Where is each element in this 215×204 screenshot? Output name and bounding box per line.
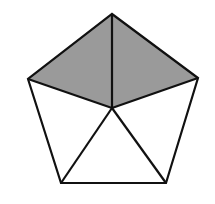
interior-segment xyxy=(112,108,166,183)
pentagon-diagram xyxy=(0,0,215,204)
interior-segment xyxy=(61,108,112,183)
